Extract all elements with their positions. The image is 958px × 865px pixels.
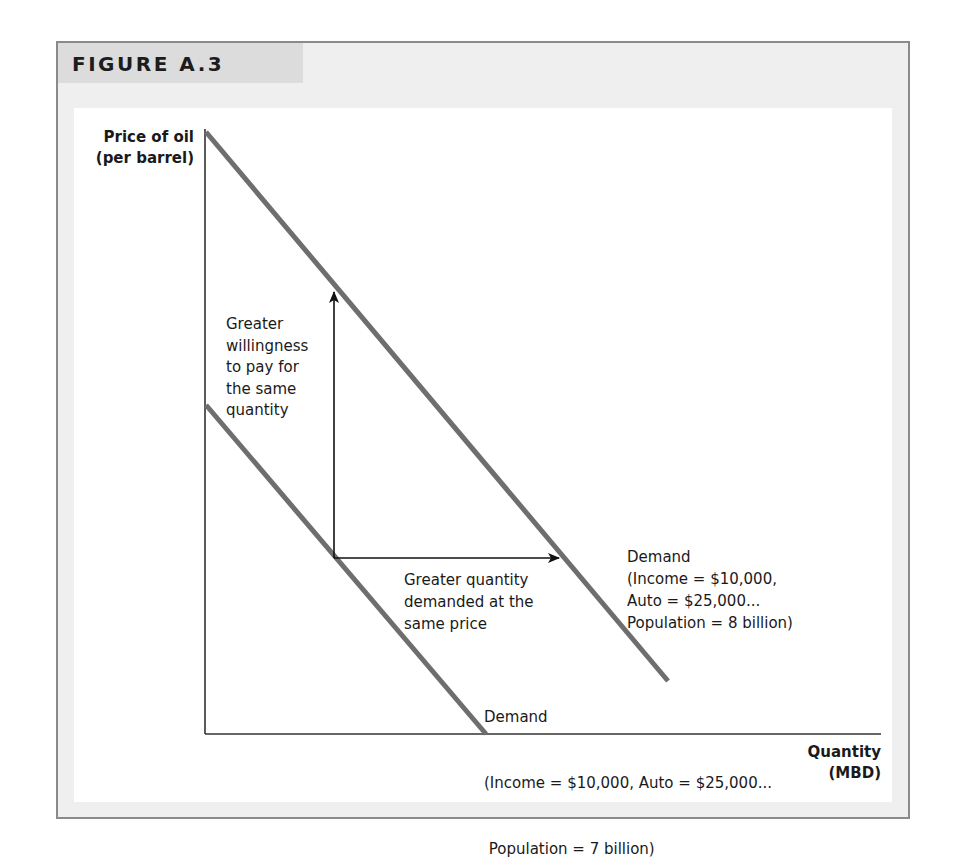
curve-label-line: (Income = $10,000, Auto = $25,000... [484,772,772,794]
annotation-line: willingness [226,336,308,358]
curve-label-line: Population = 7 billion) [484,838,772,860]
annotation-line: the same [226,379,308,401]
annotation-line: quantity [226,400,308,422]
y-axis-label-line2: (per barrel) [96,148,194,169]
x-axis-label-line1: Quantity [808,742,882,763]
annotation-line: Greater quantity [404,569,534,591]
horizontal-shift-annotation: Greater quantity demanded at the same pr… [404,569,534,635]
annotation-line: demanded at the [404,591,534,613]
y-axis-label: Price of oil (per barrel) [96,127,194,169]
vertical-shift-annotation: Greater willingness to pay for the same … [226,314,308,422]
demand-low-label: Demand (Income = $10,000, Auto = $25,000… [484,662,772,865]
curve-label-line: Auto = $25,000... [627,590,793,612]
x-axis-label-line2: (MBD) [808,763,882,784]
x-axis-label: Quantity (MBD) [808,742,882,784]
demand-high-label: Demand (Income = $10,000, Auto = $25,000… [627,546,793,634]
curve-label-line: Demand [484,706,772,728]
y-axis-label-line1: Price of oil [96,127,194,148]
curve-label-line: (Income = $10,000, [627,568,793,590]
annotation-line: same price [404,613,534,635]
annotation-line: to pay for [226,357,308,379]
curve-label-line: Population = 8 billion) [627,612,793,634]
annotation-line: Greater [226,314,308,336]
curve-label-line: Demand [627,546,793,568]
